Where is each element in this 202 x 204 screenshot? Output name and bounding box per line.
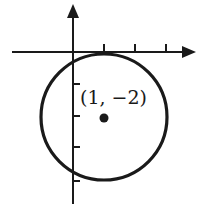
x-axis-arrow-icon [182, 46, 196, 58]
center-point [100, 114, 109, 123]
y-axis-arrow-icon [67, 4, 79, 18]
x-axis [12, 44, 196, 58]
center-label: (1, −2) [80, 88, 147, 107]
